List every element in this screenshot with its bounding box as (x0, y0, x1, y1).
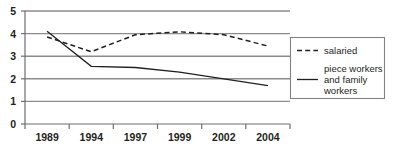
y-tick-label-0: 0 (10, 118, 16, 130)
legend: salaried piece workers and family worker… (291, 38, 385, 99)
y-tick-label-1: 1 (10, 95, 16, 107)
legend-label-salaried: salaried (324, 45, 357, 56)
line-chart: 5 4 3 2 1 0 1989 1994 1997 1999 2002 200… (0, 0, 393, 151)
x-tick-label-2004: 2004 (256, 131, 280, 143)
y-tick-label-5: 5 (10, 5, 16, 17)
x-tick-label-2002: 2002 (212, 131, 236, 143)
x-tick-label-1997: 1997 (124, 131, 148, 143)
chart-canvas: 5 4 3 2 1 0 1989 1994 1997 1999 2002 200… (0, 0, 393, 151)
legend-label-piece-workers-line3: workers (323, 85, 358, 96)
y-tick-label-4: 4 (10, 28, 16, 40)
legend-label-piece-workers-line2: and family (324, 74, 368, 85)
y-tick-label-3: 3 (10, 50, 16, 62)
y-tick-label-2: 2 (10, 73, 16, 85)
x-tick-label-1989: 1989 (35, 131, 59, 143)
legend-label-piece-workers-line1: piece workers (324, 63, 383, 74)
x-tick-label-1994: 1994 (80, 131, 104, 143)
x-tick-label-1999: 1999 (168, 131, 192, 143)
